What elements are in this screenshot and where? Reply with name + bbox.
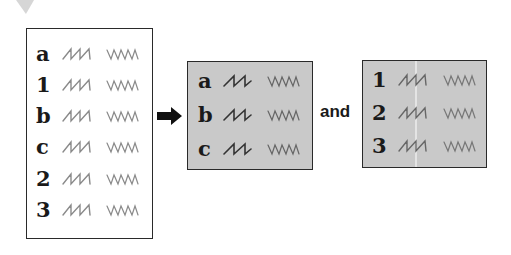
row-label: 1 — [372, 67, 387, 93]
list-row: 3 — [363, 133, 486, 159]
list-row: a — [188, 68, 312, 94]
short-squiggle-icon — [62, 77, 92, 93]
list-row: a — [27, 41, 152, 67]
list-row: b — [188, 102, 312, 128]
numbers-result-box: 1 2 3 — [362, 60, 487, 168]
row-label: b — [198, 102, 213, 128]
list-row: 1 — [27, 72, 152, 98]
long-squiggle-icon — [106, 46, 140, 62]
list-row: 2 — [363, 100, 486, 126]
long-squiggle-icon — [267, 141, 301, 157]
corner-decoration — [8, 0, 34, 14]
short-squiggle-icon — [223, 107, 253, 123]
short-squiggle-icon — [62, 46, 92, 62]
row-label: a — [36, 41, 50, 67]
row-label: b — [36, 103, 51, 129]
right-arrow-icon — [157, 106, 183, 126]
list-row: 1 — [363, 67, 486, 93]
row-label: a — [198, 68, 212, 94]
long-squiggle-icon — [443, 138, 477, 154]
short-squiggle-icon — [223, 73, 253, 89]
row-label: c — [198, 136, 211, 162]
long-squiggle-icon — [106, 108, 140, 124]
long-squiggle-icon — [106, 171, 140, 187]
row-label: 1 — [36, 72, 51, 98]
short-squiggle-icon — [398, 138, 428, 154]
row-label: 2 — [372, 100, 387, 126]
long-squiggle-icon — [267, 73, 301, 89]
list-row: 3 — [27, 197, 152, 223]
list-row: c — [27, 134, 152, 160]
row-label: 3 — [372, 133, 387, 159]
row-label: 2 — [36, 166, 51, 192]
short-squiggle-icon — [398, 105, 428, 121]
short-squiggle-icon — [398, 72, 428, 88]
long-squiggle-icon — [106, 139, 140, 155]
conjunction-label: and — [320, 101, 350, 123]
short-squiggle-icon — [62, 202, 92, 218]
long-squiggle-icon — [443, 72, 477, 88]
short-squiggle-icon — [62, 171, 92, 187]
short-squiggle-icon — [62, 139, 92, 155]
source-list-box: a 1 b c 2 3 — [26, 28, 153, 239]
long-squiggle-icon — [267, 107, 301, 123]
list-row: b — [27, 103, 152, 129]
short-squiggle-icon — [223, 141, 253, 157]
row-label: 3 — [36, 197, 51, 223]
long-squiggle-icon — [106, 202, 140, 218]
letters-result-box: a b c — [187, 61, 313, 170]
row-label: c — [36, 134, 49, 160]
list-row: 2 — [27, 166, 152, 192]
long-squiggle-icon — [106, 77, 140, 93]
list-row: c — [188, 136, 312, 162]
short-squiggle-icon — [62, 108, 92, 124]
long-squiggle-icon — [443, 105, 477, 121]
